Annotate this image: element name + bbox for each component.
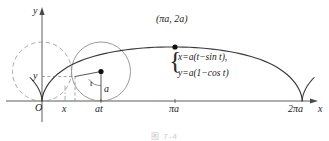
previous-arch-stub xyxy=(30,78,42,102)
tick-label-2pi-a: 2πa xyxy=(288,104,303,114)
y-axis-label: y xyxy=(33,6,37,16)
next-arch-stub xyxy=(302,78,314,102)
equation-y: y=a(1−cos t) xyxy=(178,68,229,78)
equation-x: x=a(t−sin t), xyxy=(178,52,227,62)
figure-caption: 图 7-4 xyxy=(0,130,329,141)
apex-coordinate-label: (πa, 2a) xyxy=(156,14,188,24)
cycloid-figure: y x O x at πa 2πa y t a (πa, 2a) { x=a(t… xyxy=(0,0,329,141)
y-value-label: y xyxy=(33,71,37,81)
origin-label: O xyxy=(35,103,42,113)
x-axis xyxy=(6,98,318,103)
tick-label-x: x xyxy=(62,104,66,114)
radius-lines xyxy=(75,72,101,102)
circle-center-point xyxy=(98,69,103,74)
x-axis-label: x xyxy=(318,104,322,114)
tick-label-at: at xyxy=(95,104,103,114)
tick-label-pi-a: πa xyxy=(169,104,179,114)
radius-label-a: a xyxy=(104,84,109,94)
angle-label-t: t xyxy=(90,79,93,88)
